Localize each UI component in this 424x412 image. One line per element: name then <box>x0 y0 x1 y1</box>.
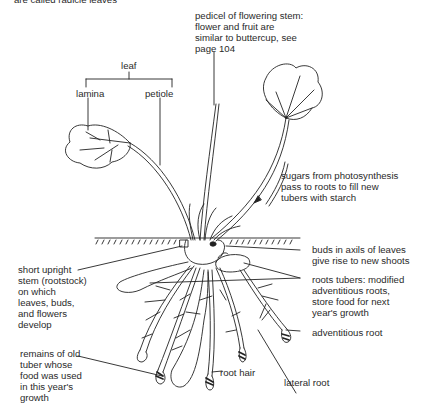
label-root-hair: root hair <box>220 367 255 378</box>
left-leaf <box>65 125 130 168</box>
label-petiole: petiole <box>145 88 173 99</box>
rootstock <box>185 240 225 264</box>
label-old-tuber: remains of old tuber whose food was used… <box>20 348 82 403</box>
label-adventitious-root: adventitious root <box>312 327 382 338</box>
old-tuber-remains <box>171 270 208 387</box>
leaf-bracket <box>86 72 172 87</box>
header-fragment: are called radicle leaves <box>14 0 117 5</box>
soil-surface <box>95 238 300 244</box>
label-sugars: sugars from photosynthesis pass to roots… <box>281 170 398 203</box>
label-leaf: leaf <box>121 60 136 71</box>
label-rootstock: short upright stem (rootstock) on which … <box>18 264 87 330</box>
label-root-tubers: roots tubers: modified adventitious root… <box>312 274 404 318</box>
label-pedicel: pedicel of flowering stem: flower and fr… <box>195 10 303 54</box>
label-lamina: lamina <box>76 88 104 99</box>
label-buds: buds in axils of leaves give rise to new… <box>312 244 410 266</box>
label-lateral-root: lateral root <box>284 377 329 388</box>
